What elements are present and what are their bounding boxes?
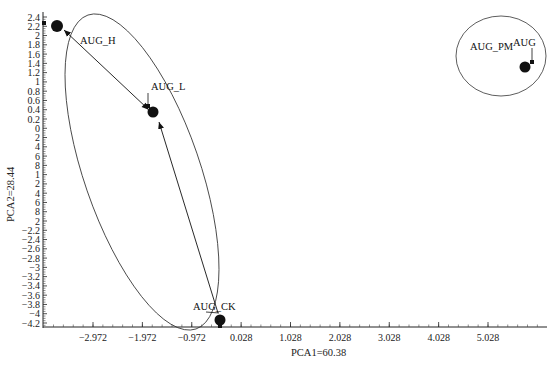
x-axis-tick-labels: −2.972−1.972−0.9720.0281.0282.0283.0284.… (79, 332, 499, 343)
y-axis: 2.42.221.81.61.41.210.80.60.40.202468124… (5, 12, 47, 329)
x-tick-label: −0.972 (178, 332, 206, 343)
y-axis-ticks (43, 17, 47, 325)
x-tick-label: 2.028 (329, 332, 352, 343)
leader-aug-ck (206, 312, 219, 313)
label-aug-l: AUG_L (151, 81, 185, 92)
x-tick-label: 3.028 (378, 332, 401, 343)
arrow-aug-ck-to-aug-l (159, 122, 218, 313)
cluster-ellipse-2 (456, 16, 546, 96)
point-aug-pm (520, 62, 531, 73)
x-axis-ticks (54, 322, 538, 327)
pca-scatter-plot: 2.42.221.81.61.41.210.80.60.40.202468124… (0, 0, 547, 365)
x-tick-label: 4.028 (427, 332, 450, 343)
x-axis: −2.972−1.972−0.9720.0281.0282.0283.0284.… (43, 322, 547, 358)
x-tick-label: 0.028 (230, 332, 253, 343)
x-tick-label: 5.028 (477, 332, 500, 343)
x-axis-label: PCA1=60.38 (291, 347, 346, 358)
y-axis-label: PCA2=28.44 (5, 166, 16, 222)
x-tick-label: −1.972 (128, 332, 156, 343)
label-aug-pm: AUG_PM (470, 41, 514, 52)
x-tick-label: 1.028 (279, 332, 302, 343)
label-aug-ck: AUG_CK (193, 301, 236, 312)
axis-square-marker (42, 21, 46, 25)
x-tick-label: −2.972 (79, 332, 107, 343)
y-tick-label: −4.2 (22, 318, 40, 329)
label-aug-h: AUG_H (80, 35, 116, 46)
cluster-ellipse-1 (33, 0, 251, 348)
y-axis-tick-labels: 2.42.221.81.61.41.210.80.60.40.202468124… (22, 12, 40, 329)
leader-aug-square (530, 60, 534, 64)
point-aug-ck (215, 315, 226, 329)
leader-aug-l-square (146, 104, 150, 108)
point-aug-h (51, 20, 63, 32)
label-aug: AUG (513, 37, 536, 48)
point-aug-l (148, 107, 159, 118)
